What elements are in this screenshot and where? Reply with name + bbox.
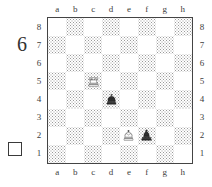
square-e7[interactable] [120, 36, 138, 54]
square-f4[interactable] [138, 90, 156, 108]
square-d3[interactable] [102, 109, 120, 127]
chess-board: abcdefgh abcdefgh 87654321 87654321 [47, 17, 193, 164]
rank-label-5: 5 [197, 76, 207, 87]
square-a6[interactable] [48, 54, 66, 72]
square-c8[interactable] [84, 18, 102, 36]
square-b2[interactable] [66, 127, 84, 145]
square-b3[interactable] [66, 109, 84, 127]
file-label-h: h [174, 4, 192, 15]
square-g3[interactable] [156, 109, 174, 127]
square-e5[interactable] [120, 72, 138, 90]
square-c7[interactable] [84, 36, 102, 54]
file-label-d: d [102, 4, 120, 15]
file-label-a: a [48, 167, 66, 178]
square-h7[interactable] [174, 36, 192, 54]
rank-label-7: 7 [197, 40, 207, 51]
file-label-e: e [120, 4, 138, 15]
square-a8[interactable] [48, 18, 66, 36]
square-g1[interactable] [156, 145, 174, 163]
file-label-c: c [84, 4, 102, 15]
file-label-h: h [174, 167, 192, 178]
square-c5[interactable] [84, 72, 102, 90]
rank-label-8: 8 [197, 22, 207, 33]
rank-label-6: 6 [34, 58, 44, 69]
square-f7[interactable] [138, 36, 156, 54]
square-c6[interactable] [84, 54, 102, 72]
square-b8[interactable] [66, 18, 84, 36]
square-e2[interactable] [120, 127, 138, 145]
file-label-g: g [156, 4, 174, 15]
square-b1[interactable] [66, 145, 84, 163]
square-b5[interactable] [66, 72, 84, 90]
rank-label-1: 1 [197, 148, 207, 159]
square-h1[interactable] [174, 145, 192, 163]
square-g8[interactable] [156, 18, 174, 36]
square-f2[interactable] [138, 127, 156, 145]
square-a2[interactable] [48, 127, 66, 145]
square-d7[interactable] [102, 36, 120, 54]
diagram-number: 6 [9, 31, 35, 57]
file-label-e: e [120, 167, 138, 178]
square-c1[interactable] [84, 145, 102, 163]
square-e3[interactable] [120, 109, 138, 127]
file-label-f: f [138, 167, 156, 178]
square-g6[interactable] [156, 54, 174, 72]
file-label-g: g [156, 167, 174, 178]
square-c3[interactable] [84, 109, 102, 127]
square-f8[interactable] [138, 18, 156, 36]
rank-label-8: 8 [34, 22, 44, 33]
square-e8[interactable] [120, 18, 138, 36]
square-h8[interactable] [174, 18, 192, 36]
square-h5[interactable] [174, 72, 192, 90]
file-label-b: b [66, 167, 84, 178]
square-f3[interactable] [138, 109, 156, 127]
square-e4[interactable] [120, 90, 138, 108]
rank-label-2: 2 [197, 130, 207, 141]
square-a4[interactable] [48, 90, 66, 108]
square-g5[interactable] [156, 72, 174, 90]
rank-label-6: 6 [197, 58, 207, 69]
square-b6[interactable] [66, 54, 84, 72]
square-a3[interactable] [48, 109, 66, 127]
square-d5[interactable] [102, 72, 120, 90]
white-king [120, 127, 138, 145]
square-c4[interactable] [84, 90, 102, 108]
board-squares [48, 18, 191, 162]
square-g4[interactable] [156, 90, 174, 108]
square-e6[interactable] [120, 54, 138, 72]
square-f5[interactable] [138, 72, 156, 90]
file-label-c: c [84, 167, 102, 178]
square-a5[interactable] [48, 72, 66, 90]
square-h3[interactable] [174, 109, 192, 127]
square-b4[interactable] [66, 90, 84, 108]
rank-label-4: 4 [197, 94, 207, 105]
square-g2[interactable] [156, 127, 174, 145]
square-h2[interactable] [174, 127, 192, 145]
rank-label-3: 3 [197, 112, 207, 123]
square-g7[interactable] [156, 36, 174, 54]
file-label-f: f [138, 4, 156, 15]
square-d6[interactable] [102, 54, 120, 72]
square-d1[interactable] [102, 145, 120, 163]
black-king [102, 90, 120, 108]
rank-label-5: 5 [34, 76, 44, 87]
square-f1[interactable] [138, 145, 156, 163]
square-e1[interactable] [120, 145, 138, 163]
square-c2[interactable] [84, 127, 102, 145]
black-bishop [138, 127, 156, 145]
square-b7[interactable] [66, 36, 84, 54]
square-a7[interactable] [48, 36, 66, 54]
square-d8[interactable] [102, 18, 120, 36]
rank-label-3: 3 [34, 112, 44, 123]
square-f6[interactable] [138, 54, 156, 72]
square-h6[interactable] [174, 54, 192, 72]
square-d4[interactable] [102, 90, 120, 108]
file-label-b: b [66, 4, 84, 15]
rank-label-1: 1 [34, 148, 44, 159]
white-rook [84, 72, 102, 90]
square-h4[interactable] [174, 90, 192, 108]
white-square-to-move-icon [8, 142, 22, 156]
rank-label-4: 4 [34, 94, 44, 105]
square-a1[interactable] [48, 145, 66, 163]
square-d2[interactable] [102, 127, 120, 145]
